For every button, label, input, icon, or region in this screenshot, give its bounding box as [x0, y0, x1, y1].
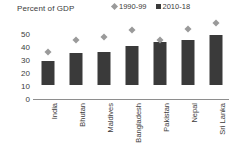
- category-label: Bhutan: [79, 103, 87, 127]
- marker-1990-99: [128, 26, 135, 33]
- marker-1990-99: [44, 49, 51, 56]
- x-axis-line: [33, 99, 229, 100]
- marker-1990-99: [184, 25, 191, 32]
- bar-2010-18: [98, 52, 111, 85]
- bar-group: [174, 0, 202, 85]
- y-axis-tick-label: 40: [21, 42, 30, 51]
- bar-2010-18: [182, 40, 195, 85]
- bar-2010-18: [154, 42, 167, 85]
- bar-2010-18: [70, 53, 83, 85]
- category-label: India: [51, 103, 59, 119]
- bar-group: [62, 0, 90, 85]
- category-label: Nepal: [191, 103, 199, 123]
- y-axis-tick-label: 10: [21, 81, 30, 90]
- marker-1990-99: [72, 36, 79, 43]
- bar-group: [90, 0, 118, 85]
- bar-group: [202, 0, 230, 85]
- bar-2010-18: [126, 46, 139, 85]
- y-axis-tick-label: 50: [21, 29, 30, 38]
- chart-container: Percent of GDP 1990-99 2010-18 010203040…: [0, 0, 237, 148]
- category-label: Sri Lanka: [219, 103, 227, 135]
- bar-group: [146, 0, 174, 85]
- marker-1990-99: [212, 19, 219, 26]
- y-axis-tick-label: 30: [21, 55, 30, 64]
- bar-2010-18: [42, 61, 55, 85]
- bar-2010-18: [210, 35, 223, 85]
- bar-group: [34, 0, 62, 85]
- y-axis-tick-label: 0: [26, 95, 30, 104]
- category-label: Bangladesh: [135, 103, 143, 143]
- bar-group: [118, 0, 146, 85]
- plot-area: 01020304050 IndiaBhutanMaldivesBanglades…: [33, 14, 229, 85]
- y-axis-tick-label: 20: [21, 68, 30, 77]
- category-label: Maldives: [107, 103, 115, 133]
- category-label: Pakistan: [163, 103, 171, 132]
- marker-1990-99: [100, 33, 107, 40]
